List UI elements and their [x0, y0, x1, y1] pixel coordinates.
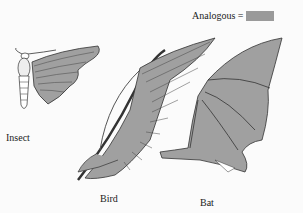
- bat-label: Bat: [200, 197, 214, 208]
- insect-figure: [16, 46, 100, 109]
- bird-label: Bird: [100, 193, 118, 204]
- analogous-structures-diagram: Analogous =: [0, 0, 303, 213]
- wings-illustration: [0, 0, 303, 213]
- insect-label: Insect: [6, 132, 30, 143]
